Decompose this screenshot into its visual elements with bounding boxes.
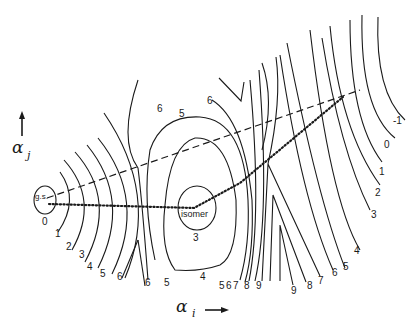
svg-text:3: 3 bbox=[371, 209, 377, 220]
x-axis-label: α i bbox=[176, 296, 229, 320]
svg-text:6: 6 bbox=[145, 277, 151, 288]
svg-text:4: 4 bbox=[87, 261, 93, 272]
dashed-path bbox=[47, 90, 360, 198]
svg-text:isomer: isomer bbox=[181, 209, 208, 219]
svg-text:i: i bbox=[192, 307, 196, 320]
svg-text:5: 5 bbox=[100, 268, 106, 279]
svg-text:3: 3 bbox=[193, 232, 199, 243]
contour-diagram: α j α i g.s. isomer bbox=[0, 0, 415, 329]
svg-text:4: 4 bbox=[354, 245, 360, 256]
svg-text:4: 4 bbox=[200, 271, 206, 282]
svg-text:-1: -1 bbox=[393, 115, 402, 126]
arrow-up-icon bbox=[19, 111, 25, 119]
y-axis-label: α j bbox=[12, 111, 31, 162]
svg-text:7: 7 bbox=[233, 280, 239, 291]
svg-text:6: 6 bbox=[226, 280, 232, 291]
svg-text:5: 5 bbox=[219, 280, 225, 291]
svg-text:5: 5 bbox=[164, 277, 170, 288]
svg-text:8: 8 bbox=[244, 280, 250, 291]
svg-text:α: α bbox=[176, 296, 188, 316]
svg-text:5: 5 bbox=[179, 108, 185, 119]
svg-text:6: 6 bbox=[332, 267, 338, 278]
svg-text:9: 9 bbox=[291, 285, 297, 296]
svg-text:3: 3 bbox=[79, 249, 85, 260]
svg-text:6: 6 bbox=[157, 103, 163, 114]
right-contours bbox=[249, 15, 405, 285]
svg-text:7: 7 bbox=[318, 275, 324, 286]
svg-text:9: 9 bbox=[256, 280, 262, 291]
ground-state-minimum: g.s. bbox=[34, 186, 56, 214]
svg-text:5: 5 bbox=[343, 261, 349, 272]
svg-text:1: 1 bbox=[55, 228, 61, 239]
isomer-well: isomer bbox=[147, 100, 252, 282]
svg-text:2: 2 bbox=[66, 241, 72, 252]
arrow-right-icon bbox=[221, 307, 229, 313]
svg-text:0: 0 bbox=[42, 216, 48, 227]
svg-text:6: 6 bbox=[207, 95, 213, 106]
svg-text:j: j bbox=[24, 149, 31, 162]
svg-text:0: 0 bbox=[384, 139, 390, 150]
svg-text:1: 1 bbox=[379, 166, 385, 177]
svg-text:α: α bbox=[12, 137, 24, 157]
svg-text:g.s.: g.s. bbox=[35, 192, 48, 201]
svg-text:8: 8 bbox=[307, 280, 313, 291]
svg-text:2: 2 bbox=[375, 187, 381, 198]
svg-text:6: 6 bbox=[117, 271, 123, 282]
v-contour bbox=[219, 78, 244, 101]
left-contours bbox=[58, 80, 148, 286]
